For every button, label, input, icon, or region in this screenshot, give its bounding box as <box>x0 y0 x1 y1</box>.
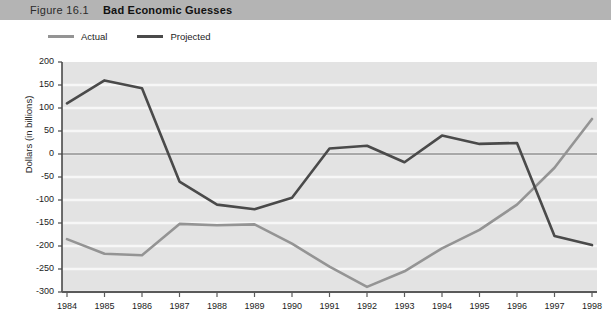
x-axis-tick-label: 1998 <box>572 301 611 311</box>
y-axis-tick-label: -150 <box>20 217 54 227</box>
x-axis-tick-label: 1991 <box>310 301 350 311</box>
y-axis-tick-label: -250 <box>20 263 54 273</box>
y-axis-tick-label: -300 <box>20 286 54 296</box>
x-axis-tick-label: 1994 <box>422 301 462 311</box>
x-axis-tick-label: 1989 <box>235 301 275 311</box>
x-axis-tick-label: 1987 <box>160 301 200 311</box>
y-axis-tick-label: 150 <box>20 79 54 89</box>
y-axis-tick-label: -100 <box>20 194 54 204</box>
y-axis-tick-label: -50 <box>20 171 54 181</box>
x-axis-tick-label: 1995 <box>460 301 500 311</box>
x-axis-tick-label: 1993 <box>385 301 425 311</box>
y-axis-tick-label: 50 <box>20 125 54 135</box>
y-axis-tick-label: 200 <box>20 56 54 66</box>
x-axis-tick-label: 1986 <box>122 301 162 311</box>
x-axis-tick-label: 1984 <box>47 301 87 311</box>
line-chart: Dollars (in billions) -300-250-200-150-1… <box>0 0 611 325</box>
x-axis-tick-label: 1992 <box>347 301 387 311</box>
plot-canvas <box>0 0 611 325</box>
x-axis-tick-label: 1988 <box>197 301 237 311</box>
y-axis-tick-label: 0 <box>20 148 54 158</box>
x-axis-tick-label: 1996 <box>497 301 537 311</box>
x-axis-tick-label: 1985 <box>85 301 125 311</box>
x-axis-tick-label: 1997 <box>535 301 575 311</box>
x-axis-tick-label: 1990 <box>272 301 312 311</box>
y-axis-tick-label: -200 <box>20 240 54 250</box>
y-axis-tick-label: 100 <box>20 102 54 112</box>
